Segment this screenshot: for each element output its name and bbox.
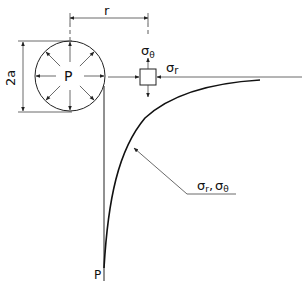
pressurized-hole: P — [35, 41, 105, 111]
diameter-dimension: 2a — [3, 41, 72, 112]
element-square — [140, 69, 156, 85]
pressure-arrow — [80, 86, 94, 100]
stress-curve — [104, 80, 260, 268]
sigma-theta-label: σθ — [141, 43, 155, 60]
pressure-label: P — [64, 68, 72, 84]
pressure-arrow — [80, 52, 94, 66]
curve-leader: σr,σθ — [134, 148, 236, 194]
radius-dimension: r — [70, 3, 148, 23]
stress-element: σθ σr — [140, 43, 179, 97]
curve-label: σr,σθ — [197, 178, 229, 194]
pressure-arrow — [46, 86, 60, 100]
diameter-label: 2a — [3, 70, 18, 86]
pressure-arrow — [46, 52, 60, 66]
axis-origin-label: P — [94, 268, 101, 282]
stress-diagram: r 2a P σθ σr P σr,σθ — [0, 0, 307, 286]
radius-label: r — [104, 3, 110, 18]
leader-arrow — [134, 148, 187, 194]
sigma-r-label: σr — [166, 60, 179, 76]
